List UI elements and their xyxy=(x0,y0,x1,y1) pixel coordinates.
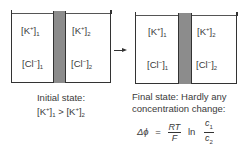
initial-cl1-label: [Cl−]1 xyxy=(22,58,43,70)
transition-arrow-head xyxy=(122,48,127,52)
initial-cl2-label: [Cl−]2 xyxy=(71,58,92,70)
initial-caption: Initial state: [K+]1 > [K+]2 xyxy=(11,92,111,121)
final-k2-label: [K+]2 xyxy=(197,26,215,38)
equation-ln: ln xyxy=(188,126,195,137)
final-k1-label: [K+]1 xyxy=(148,26,166,38)
fraction-rt-f: RT F xyxy=(168,122,182,143)
initial-caption-line2: [K+]1 > [K+]2 xyxy=(11,104,111,122)
final-caption: Final state: Hardly any concentration ch… xyxy=(132,91,244,114)
final-caption-line1: Final state: Hardly any xyxy=(132,91,244,103)
initial-membrane xyxy=(53,11,66,83)
equation-lhs: Δϕ xyxy=(137,126,149,137)
final-cl2-label: [Cl−]2 xyxy=(196,59,217,71)
initial-caption-line1: Initial state: xyxy=(11,92,111,104)
initial-k2-label: [K+]2 xyxy=(72,25,90,37)
final-membrane xyxy=(178,13,192,84)
fraction-c1-c2: c1 c2 xyxy=(204,118,214,147)
equation-equals: = xyxy=(155,126,161,137)
final-cl1-label: [Cl−]1 xyxy=(147,59,168,71)
final-caption-line2: concentration change: xyxy=(132,103,244,115)
initial-k1-label: [K+]1 xyxy=(21,25,39,37)
nernst-equation: Δϕ = RT F ln c1 c2 xyxy=(137,118,214,147)
